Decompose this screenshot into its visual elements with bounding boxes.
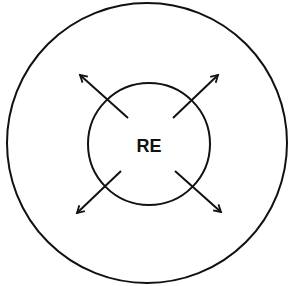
arrow-up-right-icon [173,75,218,118]
arrow-down-right-icon [175,171,221,212]
center-label: RE [136,136,161,156]
diagram-canvas: RE [0,0,292,286]
arrow-up-left-icon [80,75,128,118]
